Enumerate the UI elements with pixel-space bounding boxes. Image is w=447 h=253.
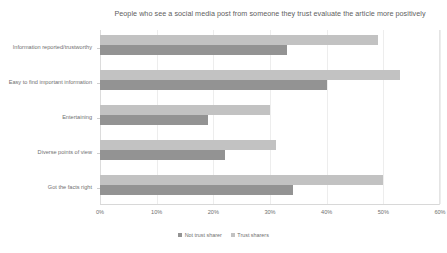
bar-trust-sharers [100, 175, 383, 185]
bar-group [100, 65, 439, 100]
bar-trust-sharers [100, 140, 276, 150]
y-axis-labels: Information reported/trustworthyEasy to … [0, 30, 96, 205]
legend-item[interactable]: Trust sharers [231, 232, 269, 238]
x-axis-tick-label: 20% [208, 209, 219, 215]
x-axis-tick-label: 30% [264, 209, 275, 215]
bar-trust-sharers [100, 105, 270, 115]
x-axis-labels: 0%10%20%30%40%50%60% [100, 209, 440, 221]
y-axis-label: Diverse points of view [0, 149, 92, 156]
bar-not-trust-sharer [100, 45, 287, 55]
y-axis-label: Information reported/trustworthy [0, 44, 92, 51]
x-axis-tick-label: 60% [434, 209, 445, 215]
bar-group [100, 100, 439, 135]
bar-rows [100, 30, 439, 204]
bar-not-trust-sharer [100, 150, 225, 160]
legend-swatch-icon [178, 233, 182, 237]
y-axis-label: Easy to find important information [0, 79, 92, 86]
bar-group [100, 30, 439, 65]
bar-group [100, 135, 439, 170]
legend-label: Not trust sharer [185, 232, 222, 238]
bar-not-trust-sharer [100, 185, 293, 195]
x-axis-tick-label: 10% [151, 209, 162, 215]
x-axis-tick-label: 50% [378, 209, 389, 215]
legend-label: Trust sharers [237, 232, 269, 238]
chart-legend: Not trust sharerTrust sharers [0, 232, 447, 238]
x-axis-tick-label: 0% [96, 209, 104, 215]
bar-trust-sharers [100, 35, 378, 45]
bar-not-trust-sharer [100, 80, 327, 90]
bar-chart: People who see a social media post from … [0, 0, 447, 253]
y-axis-label: Entertaining [0, 114, 92, 121]
x-axis-tick-label: 40% [321, 209, 332, 215]
legend-item[interactable]: Not trust sharer [178, 232, 222, 238]
bar-group [100, 170, 439, 205]
gridline [440, 30, 441, 204]
chart-title: People who see a social media post from … [100, 9, 440, 18]
legend-swatch-icon [231, 233, 235, 237]
bar-not-trust-sharer [100, 115, 208, 125]
y-axis-label: Got the facts right [0, 184, 92, 191]
plot-area [100, 30, 440, 205]
bar-trust-sharers [100, 70, 400, 80]
